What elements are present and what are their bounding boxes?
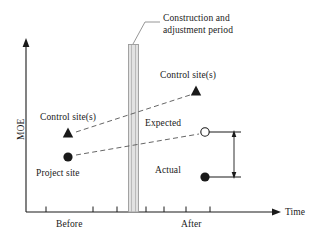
x-tick-label-after: After xyxy=(181,219,202,230)
actual-filled-circle-marker xyxy=(200,172,209,181)
project-site-label: Project site xyxy=(36,168,80,179)
x-axis-title: Time xyxy=(285,207,305,218)
construction-leader-line xyxy=(133,22,160,44)
x-axis-arrowhead xyxy=(272,209,281,216)
actual-label: Actual xyxy=(155,165,181,176)
expected-label: Expected xyxy=(145,118,181,129)
effect-gap-arrowhead-down xyxy=(232,172,237,179)
control-site-before-label: Control site(s) xyxy=(40,112,96,123)
y-axis-title: MOE xyxy=(16,119,27,140)
control-site-after-label: Control site(s) xyxy=(160,70,216,81)
control-site-before-triangle-marker xyxy=(63,128,73,138)
project-site-before-circle-marker xyxy=(63,152,72,161)
construction-column-body xyxy=(129,45,139,213)
x-axis-ticks xyxy=(46,207,210,213)
expected-open-circle-marker xyxy=(201,128,209,136)
construction-caption-line2: adjustment period xyxy=(163,25,233,36)
control-site-after-triangle-marker xyxy=(191,86,201,96)
construction-period-column xyxy=(129,45,139,213)
effect-gap-arrowhead-up xyxy=(232,130,237,137)
y-axis-arrowhead xyxy=(23,38,30,47)
baci-design-figure: Construction and adjustment period Contr… xyxy=(0,0,313,240)
effect-gap-double-arrow xyxy=(232,130,237,179)
construction-caption-line1: Construction and xyxy=(163,13,230,24)
x-tick-label-before: Before xyxy=(56,219,82,230)
